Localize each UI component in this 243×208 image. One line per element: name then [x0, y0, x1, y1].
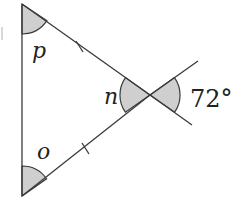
margin-mark: [1, 27, 3, 40]
angle-o-arc: [22, 166, 47, 196]
angle-72-arc: [150, 78, 180, 113]
triangle-diagram: p o n 72°: [0, 0, 243, 208]
label-o: o: [37, 139, 50, 164]
label-p: p: [32, 38, 46, 63]
label-n: n: [104, 84, 118, 109]
label-72-degrees: 72°: [190, 85, 233, 113]
